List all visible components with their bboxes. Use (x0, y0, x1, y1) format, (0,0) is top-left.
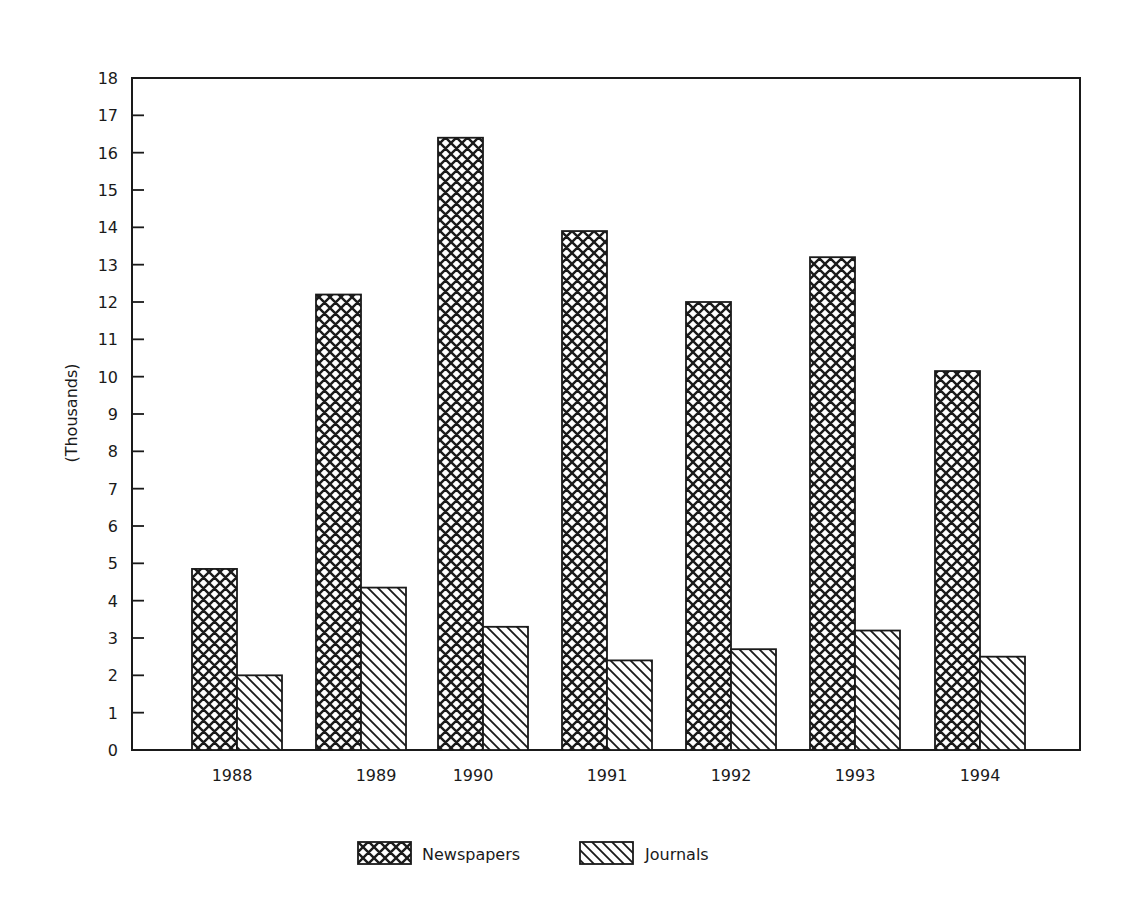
bar-newspapers-1990 (438, 138, 483, 750)
legend-label-journals: Journals (644, 845, 709, 864)
y-tick-label: 18 (98, 69, 118, 88)
x-tick-label: 1988 (212, 766, 253, 785)
x-axis: 1988198919901991199219931994 (212, 766, 1001, 785)
x-tick-label: 1992 (711, 766, 752, 785)
x-tick-label: 1990 (453, 766, 494, 785)
legend-item-journals: Journals (580, 842, 709, 864)
y-tick-label: 15 (98, 181, 118, 200)
bar-journals-1993 (855, 631, 900, 750)
y-tick-label: 12 (98, 293, 118, 312)
bar-chart: 0123456789101112131415161718 19881989199… (0, 0, 1142, 908)
y-tick-label: 9 (108, 405, 118, 424)
y-tick-label: 16 (98, 144, 118, 163)
y-tick-label: 0 (108, 741, 118, 760)
y-tick-label: 1 (108, 704, 118, 723)
bars (192, 138, 1025, 750)
bar-journals-1991 (607, 660, 652, 750)
legend-item-newspapers: Newspapers (358, 842, 520, 864)
y-tick-label: 8 (108, 442, 118, 461)
bar-journals-1992 (731, 649, 776, 750)
y-tick-label: 10 (98, 368, 118, 387)
y-axis: 0123456789101112131415161718 (98, 69, 144, 760)
y-tick-label: 5 (108, 554, 118, 573)
bar-newspapers-1991 (562, 231, 607, 750)
bar-journals-1989 (361, 588, 406, 750)
y-tick-label: 11 (98, 330, 118, 349)
x-tick-label: 1991 (587, 766, 628, 785)
bar-journals-1988 (237, 675, 282, 750)
y-axis-label: (Thousands) (62, 363, 81, 462)
y-tick-label: 6 (108, 517, 118, 536)
bar-newspapers-1989 (316, 295, 361, 750)
y-tick-label: 13 (98, 256, 118, 275)
bar-newspapers-1992 (686, 302, 731, 750)
y-tick-label: 3 (108, 629, 118, 648)
bar-journals-1994 (980, 657, 1025, 750)
legend-label-newspapers: Newspapers (422, 845, 520, 864)
x-tick-label: 1994 (960, 766, 1001, 785)
bar-journals-1990 (483, 627, 528, 750)
journals-swatch-icon (580, 842, 633, 864)
y-tick-label: 17 (98, 106, 118, 125)
y-tick-label: 7 (108, 480, 118, 499)
bar-newspapers-1988 (192, 569, 237, 750)
y-tick-label: 2 (108, 666, 118, 685)
y-tick-label: 4 (108, 592, 118, 611)
x-tick-label: 1989 (356, 766, 397, 785)
x-tick-label: 1993 (835, 766, 876, 785)
bar-newspapers-1993 (810, 257, 855, 750)
bar-newspapers-1994 (935, 371, 980, 750)
y-tick-label: 14 (98, 218, 118, 237)
legend: Newspapers Journals (358, 842, 709, 864)
newspapers-swatch-icon (358, 842, 411, 864)
